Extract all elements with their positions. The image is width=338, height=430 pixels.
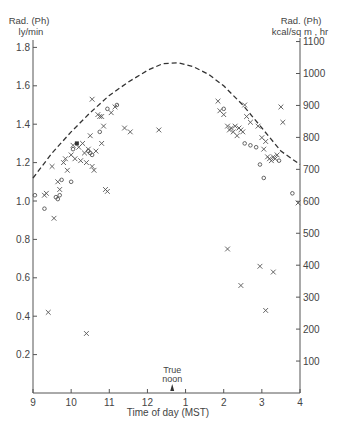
x-marker-point	[57, 187, 62, 192]
x-axis-title: Time of day (MST)	[127, 407, 209, 418]
o-marker-point	[43, 207, 47, 211]
x-marker-point	[80, 141, 85, 146]
left-tick-label: 0.4	[16, 311, 30, 322]
o-marker-point	[243, 142, 247, 146]
left-tick-label: 1.4	[16, 119, 30, 130]
x-marker-point	[122, 126, 127, 131]
x-marker-point	[225, 247, 230, 252]
o-marker-point	[69, 180, 73, 184]
true-noon-arrow-icon	[170, 384, 174, 391]
x-marker-point	[263, 308, 268, 313]
x-tick-label: 9	[30, 397, 36, 408]
o-marker-point	[291, 192, 295, 196]
x-marker-point	[84, 331, 89, 336]
right-tick-label: 600	[303, 196, 320, 207]
right-tick-label: 300	[303, 292, 320, 303]
true-noon-label-line2: noon	[162, 374, 182, 384]
right-tick-label: 400	[303, 260, 320, 271]
o-marker-point	[58, 193, 62, 197]
right-tick-label: 500	[303, 228, 320, 239]
left-tick-label: 1.6	[16, 80, 30, 91]
o-marker-point	[98, 130, 102, 134]
x-marker-point	[84, 160, 89, 165]
x-marker-point	[128, 129, 133, 134]
left-tick-label: 1.8	[16, 42, 30, 53]
x-marker-point	[216, 99, 221, 104]
right-tick-label: 800	[303, 132, 320, 143]
x-tick-label: 4	[297, 397, 303, 408]
right-tick-label: 900	[303, 100, 320, 111]
o-marker-point	[262, 176, 266, 180]
left-tick-label: 0.8	[16, 234, 30, 245]
x-marker-point	[101, 124, 106, 129]
right-tick-label: 100	[303, 356, 320, 367]
left-tick-label: 1.0	[16, 196, 30, 207]
observation-points	[33, 97, 300, 336]
o-marker-point	[258, 163, 262, 167]
right-tick-label: 200	[303, 324, 320, 335]
filled-marker-point	[75, 141, 79, 145]
o-marker-point	[106, 107, 110, 111]
x-marker-point	[242, 103, 247, 108]
x-marker-point	[65, 168, 70, 173]
x-marker-point	[78, 158, 83, 163]
x-marker-point	[238, 283, 243, 288]
x-marker-point	[99, 141, 104, 146]
radiation-chart: Rad. (Ph) ly/min Rad. (Ph) kcal/sq m , h…	[0, 0, 338, 430]
right-tick-label: 700	[303, 164, 320, 175]
x-marker-point	[261, 147, 266, 152]
left-axis-title-line2: ly/min	[19, 26, 44, 37]
x-ticks: 91011121234	[30, 389, 303, 408]
o-marker-point	[249, 144, 253, 148]
x-marker-point	[221, 112, 226, 117]
left-tick-label: 1.2	[16, 157, 30, 168]
x-marker-point	[46, 310, 51, 315]
x-marker-point	[279, 105, 284, 110]
x-marker-point	[50, 164, 55, 169]
x-tick-label: 10	[66, 397, 78, 408]
left-y-ticks: 0.20.40.60.81.01.21.41.61.8	[16, 42, 37, 360]
right-tick-label: 1100	[303, 36, 325, 47]
x-marker-point	[271, 270, 276, 275]
x-tick-label: 2	[221, 397, 227, 408]
left-axis-title-line1: Rad. (Ph)	[9, 15, 50, 26]
left-tick-label: 0.6	[16, 272, 30, 283]
o-marker-point	[254, 145, 258, 149]
left-tick-label: 0.2	[16, 349, 30, 360]
x-marker-point	[280, 120, 285, 125]
x-marker-point	[240, 129, 245, 134]
x-marker-point	[244, 114, 249, 119]
x-marker-point	[52, 216, 57, 221]
right-tick-label: 1000	[303, 68, 326, 79]
x-marker-point	[105, 189, 110, 194]
x-marker-point	[235, 133, 240, 138]
o-marker-point	[71, 147, 75, 151]
x-marker-point	[73, 156, 78, 161]
x-marker-point	[94, 149, 99, 154]
x-marker-point	[88, 133, 93, 138]
o-marker-point	[33, 193, 37, 197]
x-marker-point	[44, 191, 49, 196]
x-marker-point	[248, 120, 253, 125]
right-axis-title-line1: Rad. (Ph)	[281, 15, 322, 26]
x-marker-point	[263, 139, 268, 144]
x-tick-label: 11	[104, 397, 115, 408]
x-tick-label: 3	[259, 397, 265, 408]
x-marker-point	[109, 110, 114, 115]
x-marker-point	[90, 97, 95, 102]
x-marker-point	[258, 264, 263, 269]
x-marker-point	[156, 128, 161, 133]
